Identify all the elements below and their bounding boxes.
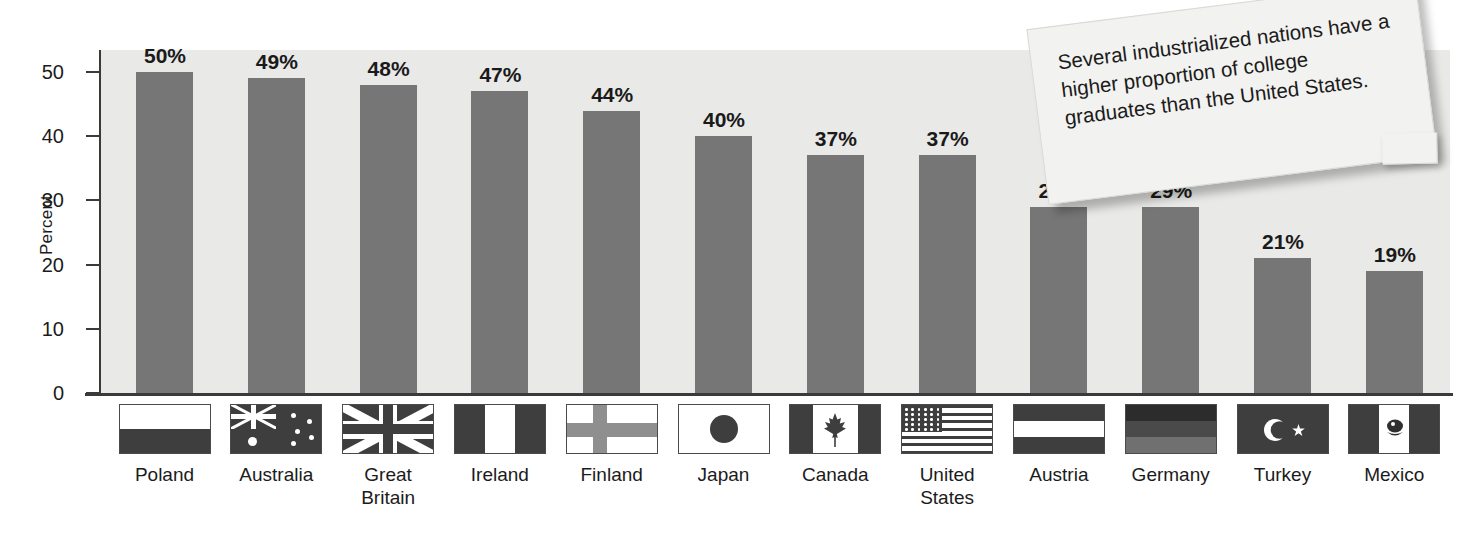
star — [937, 423, 940, 426]
star — [937, 408, 940, 411]
crescent-icon — [1262, 416, 1290, 444]
flag-stripe — [1014, 421, 1104, 437]
category-label: Finland — [556, 463, 668, 486]
flag-turkey-icon — [1237, 404, 1329, 454]
bar — [919, 155, 976, 393]
bar-column: 44% — [583, 111, 640, 393]
flag-canton — [902, 405, 942, 432]
star — [924, 423, 927, 426]
bar — [248, 78, 305, 393]
category-column: Ireland — [444, 404, 556, 486]
flag-japan-icon — [678, 404, 770, 454]
maple-leaf-icon — [823, 412, 847, 448]
flag-finland-icon — [566, 404, 658, 454]
flag-band — [515, 405, 545, 453]
southern-cross-star — [307, 419, 312, 424]
star — [918, 423, 921, 426]
star — [930, 413, 933, 416]
category-column: Japan — [668, 404, 780, 486]
y-tick-mark — [86, 135, 99, 137]
y-axis-line — [99, 50, 101, 394]
y-tick-mark — [86, 199, 99, 201]
bar-column: 19% — [1366, 271, 1423, 393]
category-column: Germany — [1115, 404, 1227, 486]
bar-value-label: 48% — [344, 57, 434, 81]
star — [924, 428, 927, 431]
bar — [1030, 207, 1087, 393]
flag-band — [455, 405, 485, 453]
star — [905, 413, 908, 416]
bar — [360, 85, 417, 393]
flag-stripe — [902, 440, 992, 443]
southern-cross-star — [295, 429, 300, 434]
star — [905, 418, 908, 421]
flag-stripe — [902, 436, 992, 439]
flag-stripe — [902, 443, 992, 446]
y-tick-mark — [86, 71, 99, 73]
bar-column: 37% — [919, 155, 976, 393]
star — [930, 423, 933, 426]
bar-value-label: 37% — [903, 127, 993, 151]
bar-chart: Percent 50403020100 50%49%48%47%44%40%37… — [0, 0, 1469, 545]
bar — [1366, 271, 1423, 393]
category-label: Japan — [668, 463, 780, 486]
bar-value-label: 44% — [567, 83, 657, 107]
flag-stripe — [1126, 421, 1216, 437]
callout-text: Several industrialized nations have a hi… — [1056, 6, 1404, 132]
flag-canton — [231, 405, 276, 429]
y-tick-mark — [86, 264, 99, 266]
y-tick-label: 0 — [4, 384, 64, 402]
category-label: Austria — [1003, 463, 1115, 486]
union-cross-dark — [343, 424, 433, 434]
bar-value-label: 47% — [455, 63, 545, 87]
y-tick-label: 30 — [4, 191, 64, 209]
flag-band — [790, 405, 813, 453]
flag-band — [1409, 405, 1439, 453]
category-label: Canada — [779, 463, 891, 486]
category-column: Austria — [1003, 404, 1115, 486]
bar — [1254, 258, 1311, 393]
bar — [1142, 207, 1199, 393]
nordic-cross-h — [567, 423, 657, 437]
star — [918, 428, 921, 431]
bar-column: 29% — [1030, 207, 1087, 393]
southern-cross-star — [291, 413, 296, 418]
flag-stripe — [1126, 437, 1216, 453]
y-tick-mark — [86, 392, 99, 394]
bar — [583, 111, 640, 393]
star — [911, 423, 914, 426]
category-column: Great Britain — [332, 404, 444, 509]
star — [911, 408, 914, 411]
category-column: Canada — [779, 404, 891, 486]
flag-austria-icon — [1013, 404, 1105, 454]
category-label: Ireland — [444, 463, 556, 486]
y-tick-label: 20 — [4, 256, 64, 274]
flag-stripe — [902, 432, 992, 435]
flag-stripe — [1014, 405, 1104, 421]
y-tick-label: 40 — [4, 127, 64, 145]
flag-ireland-icon — [454, 404, 546, 454]
star — [930, 408, 933, 411]
bar-column: 50% — [136, 72, 193, 393]
flag-united-states-icon — [901, 404, 993, 454]
star — [918, 418, 921, 421]
flag-australia-icon — [230, 404, 322, 454]
flag-germany-icon — [1125, 404, 1217, 454]
flag-band — [1349, 405, 1379, 453]
star — [937, 428, 940, 431]
flag-band — [485, 405, 515, 453]
flag-stripe — [902, 447, 992, 450]
commonwealth-star — [248, 437, 257, 446]
star — [937, 418, 940, 421]
flag-stripe — [1014, 437, 1104, 453]
category-column: Finland — [556, 404, 668, 486]
bar — [695, 136, 752, 393]
star — [911, 418, 914, 421]
bar-column: 37% — [807, 155, 864, 393]
bar-column: 21% — [1254, 258, 1311, 393]
star — [905, 408, 908, 411]
category-column: Turkey — [1227, 404, 1339, 486]
bar-column: 40% — [695, 136, 752, 393]
category-label: Turkey — [1227, 463, 1339, 486]
category-column: Poland — [109, 404, 221, 486]
